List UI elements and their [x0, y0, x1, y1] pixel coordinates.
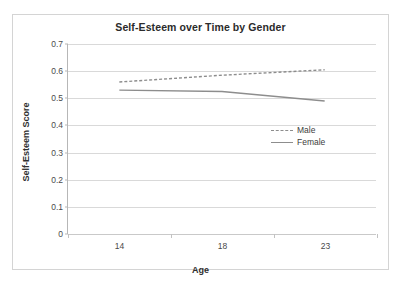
x-tick-mark	[171, 234, 172, 238]
y-tick-label: 0.7	[51, 39, 63, 49]
chart-title: Self-Esteem over Time by Gender	[13, 21, 388, 33]
legend-label: Male	[297, 125, 315, 135]
y-tick-label: 0.1	[51, 202, 63, 212]
y-tick-label: 0.5	[51, 93, 63, 103]
y-tick-label: 0.6	[51, 66, 63, 76]
chart-legend: MaleFemale	[267, 122, 351, 150]
y-tick-label: 0.2	[51, 175, 63, 185]
chart-frame: Self-Esteem over Time by Gender Self-Est…	[12, 14, 389, 270]
x-tick-label: 14	[115, 241, 124, 251]
legend-swatch-male-icon	[271, 126, 293, 134]
y-axis-title: Self-Esteem Score	[21, 102, 31, 181]
legend-item-female[interactable]: Female	[267, 136, 351, 148]
y-tick-label: 0	[58, 229, 63, 239]
x-tick-mark	[68, 234, 69, 238]
legend-item-male[interactable]: Male	[267, 124, 351, 136]
legend-swatch-female-icon	[271, 138, 293, 146]
x-tick-mark	[274, 234, 275, 238]
x-tick-label: 23	[321, 241, 330, 251]
x-tick-mark	[377, 234, 378, 238]
series-line-female	[119, 90, 324, 101]
legend-label: Female	[297, 137, 325, 147]
gridline-0	[68, 234, 376, 235]
x-tick-label: 18	[218, 241, 227, 251]
y-tick-label: 0.4	[51, 120, 63, 130]
y-tick-label: 0.3	[51, 148, 63, 158]
x-axis-title: Age	[13, 265, 388, 275]
series-line-male	[119, 70, 324, 82]
